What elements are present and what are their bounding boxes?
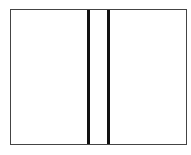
left-divider xyxy=(87,10,90,144)
outer-frame xyxy=(10,9,187,145)
right-divider xyxy=(107,10,110,144)
